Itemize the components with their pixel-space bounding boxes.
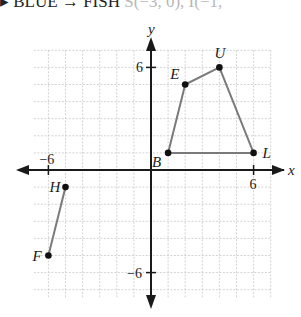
x-tick-label: −6 <box>39 152 54 167</box>
point-label-h: H <box>49 179 62 195</box>
y-tick-label: −6 <box>127 266 142 281</box>
point-label-b: B <box>152 154 161 170</box>
point-label-f: F <box>31 248 42 264</box>
axes <box>16 37 285 309</box>
point-label-u: U <box>214 45 226 61</box>
point-f <box>45 252 52 259</box>
point-u <box>216 64 223 71</box>
grid <box>34 50 271 298</box>
y-axis-arrow-up-icon <box>146 37 156 51</box>
point-label-e: E <box>169 66 179 82</box>
x-axis-arrow-right-icon <box>272 165 285 175</box>
point-l <box>250 150 257 157</box>
y-axis-arrow-down-icon <box>146 295 156 309</box>
shape-blue <box>168 67 254 152</box>
point-e <box>182 81 189 88</box>
x-axis-label: x <box>287 162 295 178</box>
point-h <box>62 184 69 191</box>
x-axis-arrow-left-icon <box>16 165 29 175</box>
point-label-l: L <box>262 145 271 161</box>
y-tick-label: 6 <box>136 60 143 75</box>
coordinate-plane: −666−6xyBEULHF <box>0 0 301 317</box>
point-b <box>165 150 172 157</box>
x-tick-label: 6 <box>250 177 257 192</box>
y-axis-label: y <box>146 21 155 37</box>
